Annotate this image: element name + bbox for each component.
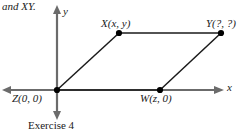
vertex-label-Y: Y(?, ?) [206,18,236,29]
vertex-point-X [116,30,122,36]
intro-text: and XY. [2,1,36,12]
y-axis [53,5,61,120]
segment-YW [160,33,221,90]
vertex-label-X: X(x, y) [101,18,130,29]
x-axis-label: x [227,82,232,93]
vertex-point-Z [54,87,60,93]
parallelogram-outline [57,33,221,90]
vertex-label-W: W(z, 0) [140,93,172,104]
y-axis-label: y [63,6,68,17]
x-axis-arrow-right [214,86,224,94]
segment-ZX [57,33,119,90]
x-axis-arrow-left [2,86,11,94]
vertex-points [54,30,224,93]
figure-container: and XY. y x X(x, y) Y(?, ?) Z(0, 0) W(z,… [0,0,246,136]
vertex-label-Z: Z(0, 0) [12,93,42,104]
figure-caption: Exercise 4 [28,120,74,131]
y-axis-arrow-top [53,5,61,14]
vertex-point-Y [218,30,224,36]
